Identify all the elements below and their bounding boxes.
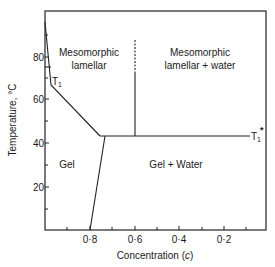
y-tick-20: 20 bbox=[33, 182, 45, 193]
region-label-gel-water: Gel + Water bbox=[149, 159, 203, 170]
t1-annotation: T1 bbox=[52, 76, 62, 88]
region-label-lamellar-water: lamellar + water bbox=[165, 60, 237, 71]
phase-diagram: 80 60 40 20 0·8 0·6 0·4 0·2 Concentratio… bbox=[0, 0, 275, 267]
t1-star-annotation: T1* bbox=[251, 125, 264, 143]
x-tick-06: 0·6 bbox=[128, 234, 143, 245]
y-tick-60: 60 bbox=[33, 94, 45, 105]
x-axis-ticks bbox=[67, 226, 246, 230]
y-tick-labels: 80 60 40 20 bbox=[33, 52, 45, 193]
y-tick-40: 40 bbox=[33, 138, 45, 149]
plot-frame bbox=[45, 11, 266, 230]
region-labels: Mesomorphic lamellar Mesomorphic lamella… bbox=[59, 47, 236, 170]
region-label-gel: Gel bbox=[59, 159, 75, 170]
x-axis-label: Concentration (c) bbox=[117, 250, 194, 261]
x-tick-04: 0·4 bbox=[172, 234, 187, 245]
region-label-mesomorphic-water: Mesomorphic bbox=[170, 47, 230, 58]
gel-boundary bbox=[90, 136, 105, 230]
x-tick-02: 0·2 bbox=[217, 234, 232, 245]
y-tick-80: 80 bbox=[33, 52, 45, 63]
y-axis-label: Temperature, °C bbox=[7, 84, 18, 157]
x-tick-08: 0·8 bbox=[83, 234, 98, 245]
x-tick-labels: 0·8 0·6 0·4 0·2 bbox=[83, 234, 232, 245]
region-label-mesomorphic: Mesomorphic bbox=[59, 47, 119, 58]
region-label-lamellar: lamellar bbox=[71, 60, 107, 71]
